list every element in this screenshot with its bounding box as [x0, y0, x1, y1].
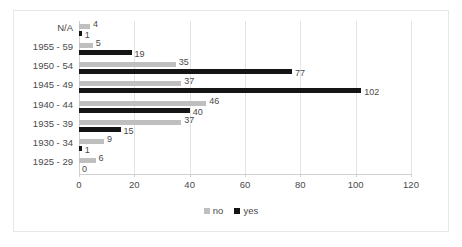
legend-item-no[interactable]: no: [204, 206, 224, 216]
bar-yes: [79, 88, 361, 93]
legend-item-yes[interactable]: yes: [234, 206, 258, 216]
chart-category-row: N/A41: [79, 21, 411, 40]
bar-value-label-no: 35: [179, 58, 189, 67]
chart-category-row: 1940 - 444640: [79, 98, 411, 117]
chart-category-row: 1925 - 2960: [79, 155, 411, 174]
x-axis-tick-label: 20: [129, 179, 140, 190]
x-axis-tick-label: 60: [240, 179, 251, 190]
gridline-120: [411, 21, 412, 174]
chart-category-row: 1950 - 543577: [79, 59, 411, 78]
bar-yes: [79, 31, 82, 36]
bar-yes: [79, 69, 292, 74]
bar-no: [79, 62, 176, 67]
bar-value-label-no: 46: [209, 97, 219, 106]
x-axis-tick-label: 100: [348, 179, 364, 190]
bar-value-label-yes: 102: [364, 88, 379, 97]
y-axis-category-label: N/A: [57, 22, 73, 33]
x-tick-mark-0: [79, 174, 80, 177]
bar-no: [79, 120, 181, 125]
bar-yes: [79, 50, 132, 55]
bar-value-label-no: 37: [184, 116, 194, 125]
y-axis-category-label: 1930 - 34: [33, 137, 73, 148]
bar-value-label-yes: 77: [295, 69, 305, 78]
x-tick-mark-120: [411, 174, 412, 177]
bar-value-label-no: 5: [96, 39, 101, 48]
x-tick-mark-20: [134, 174, 135, 177]
bar-value-label-yes: 0: [82, 165, 87, 174]
bar-no: [79, 158, 96, 163]
y-axis-category-label: 1955 - 59: [33, 41, 73, 52]
y-axis-category-label: 1945 - 49: [33, 79, 73, 90]
bar-no: [79, 139, 104, 144]
y-axis-category-label: 1950 - 54: [33, 60, 73, 71]
chart-category-row: 1955 - 59519: [79, 40, 411, 59]
legend-swatch-icon: [204, 208, 210, 214]
legend-swatch-icon: [234, 208, 240, 214]
x-tick-mark-40: [190, 174, 191, 177]
y-axis-category-label: 1940 - 44: [33, 99, 73, 110]
bar-no: [79, 101, 206, 106]
bar-value-label-yes: 1: [85, 31, 90, 40]
chart-category-row: 1935 - 393715: [79, 117, 411, 136]
legend-label: no: [213, 206, 224, 216]
chart-category-row: 1930 - 3491: [79, 136, 411, 155]
bar-no: [79, 81, 181, 86]
x-tick-mark-100: [356, 174, 357, 177]
bar-value-label-no: 37: [184, 77, 194, 86]
x-axis-tick-label: 120: [403, 179, 419, 190]
x-tick-mark-80: [300, 174, 301, 177]
bar-value-label-yes: 19: [135, 50, 145, 59]
bar-yes: [79, 127, 121, 132]
x-axis-tick-label: 0: [76, 179, 81, 190]
bar-value-label-yes: 1: [85, 146, 90, 155]
bar-value-label-no: 9: [107, 135, 112, 144]
bar-value-label-yes: 15: [124, 127, 134, 136]
bar-yes: [79, 146, 82, 151]
bar-no: [79, 43, 93, 48]
x-axis-tick-label: 80: [295, 179, 306, 190]
chart-container: N/A411955 - 595191950 - 5435771945 - 493…: [13, 10, 449, 232]
chart-legend: noyes: [14, 206, 448, 216]
bar-value-label-no: 6: [99, 154, 104, 163]
legend-label: yes: [243, 206, 258, 216]
y-axis-category-label: 1935 - 39: [33, 118, 73, 129]
bar-yes: [79, 108, 190, 113]
y-axis-category-label: 1925 - 29: [33, 156, 73, 167]
x-tick-mark-60: [245, 174, 246, 177]
x-axis-tick-label: 40: [184, 179, 195, 190]
bar-no: [79, 24, 90, 29]
chart-category-row: 1945 - 4937102: [79, 78, 411, 97]
plot-area: N/A411955 - 595191950 - 5435771945 - 493…: [79, 21, 411, 174]
bar-value-label-no: 4: [93, 20, 98, 29]
